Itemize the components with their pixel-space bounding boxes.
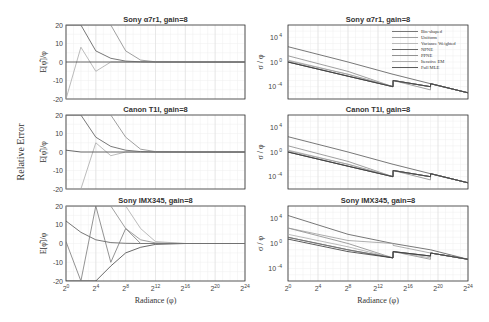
- legend-entry: Bin-shaped: [421, 29, 443, 34]
- y-tick-label: 20: [55, 22, 63, 29]
- y-tick-label: -20: [53, 278, 63, 285]
- x-tick-label: 224: [240, 283, 250, 292]
- panel-title: Sony IMX345, gain=8: [118, 196, 192, 205]
- figure: Sony α7r1, gain=820100-10-20E[φ̂]/φSony …: [0, 0, 489, 322]
- x-tick-label: 24: [315, 283, 322, 292]
- y-tick-label: 20: [55, 112, 63, 119]
- y-tick-label: 10: [55, 130, 63, 137]
- panel-title: Canon T1I, gain=8: [123, 105, 187, 114]
- y-tick-label: 10: [55, 221, 63, 228]
- legend-entry: PPNE: [421, 53, 432, 58]
- y-tick-label: -20: [53, 186, 63, 193]
- std-plot-1: Canon T1I, gain=810 410 010 -4σ / φ: [256, 105, 468, 189]
- x-tick-label: 216: [403, 283, 413, 292]
- legend-entry: Full MLE: [421, 65, 439, 70]
- y-tick-label: 10 -4: [268, 263, 282, 272]
- bias-plot-0: Sony α7r1, gain=820100-10-20E[φ̂]/φ: [39, 15, 245, 103]
- x-tick-label: 20: [63, 283, 70, 292]
- x-tick-label: 20: [285, 283, 292, 292]
- y-tick-label: 0: [59, 149, 63, 156]
- x-tick-label: 216: [181, 283, 191, 292]
- legend-entry: Variance Weighted: [421, 41, 456, 46]
- legend-entry: Uniform: [421, 35, 437, 40]
- x-tick-label: 220: [210, 283, 220, 292]
- bias-plot-1: Canon T1I, gain=820100-10-20E[φ̂]/φ: [39, 105, 245, 193]
- panel-title: Sony α7r1, gain=8: [123, 15, 187, 24]
- panel-title: Sony α7r1, gain=8: [346, 15, 410, 24]
- x-tick-label: 212: [151, 283, 161, 292]
- y-tick-label: 0: [59, 59, 63, 66]
- y-tick-label: 10 0: [270, 147, 282, 156]
- bias-plot-2: Sony IMX345, gain=820100-10-20E[φ̂]/φ202…: [39, 196, 250, 305]
- y-axis-label: σ / φ: [256, 236, 265, 252]
- x-axis-label: Radiance (φ): [357, 296, 399, 305]
- y-tick-label: -10: [53, 259, 63, 266]
- legend-entry: Iterative EM: [421, 59, 444, 64]
- legend-entry: NPNE: [421, 47, 433, 52]
- y-tick-label: 10: [55, 40, 63, 47]
- y-tick-label: 10 0: [270, 238, 282, 247]
- x-tick-label: 28: [122, 283, 129, 292]
- y-tick-label: -10: [53, 77, 63, 84]
- y-tick-label: 10 0: [270, 57, 282, 66]
- x-tick-label: 220: [433, 283, 443, 292]
- y-axis-label: E[φ̂]/φ: [39, 232, 48, 254]
- y-tick-label: 10 4: [270, 213, 282, 222]
- y-tick-label: 10 -4: [268, 171, 282, 180]
- panel-title: Sony IMX345, gain=8: [341, 196, 415, 205]
- y-axis-label: E[φ̂]/φ: [39, 141, 48, 163]
- y-tick-label: 10 4: [270, 122, 282, 131]
- y-tick-label: -10: [53, 167, 63, 174]
- y-tick-label: 10 -4: [268, 81, 282, 90]
- panel-title: Canon T1I, gain=8: [346, 105, 410, 114]
- x-tick-label: 24: [92, 283, 99, 292]
- x-axis-label: Radiance (φ): [135, 296, 177, 305]
- y-axis-label: σ / φ: [256, 54, 265, 70]
- y-axis-label: σ / φ: [256, 144, 265, 160]
- x-tick-label: 212: [373, 283, 383, 292]
- x-tick-label: 224: [463, 283, 473, 292]
- std-plot-2: Sony IMX345, gain=810 410 010 -4σ / φ202…: [256, 196, 473, 305]
- shared-y-label: Relative Error: [15, 123, 26, 181]
- y-tick-label: 10 4: [270, 32, 282, 41]
- y-tick-label: -20: [53, 96, 63, 103]
- x-tick-label: 28: [345, 283, 352, 292]
- y-axis-label: E[φ̂]/φ: [39, 51, 48, 73]
- std-plot-0: Sony α7r1, gain=810 410 010 -4σ / φ: [256, 15, 468, 99]
- y-tick-label: 20: [55, 203, 63, 210]
- y-tick-label: 0: [59, 240, 63, 247]
